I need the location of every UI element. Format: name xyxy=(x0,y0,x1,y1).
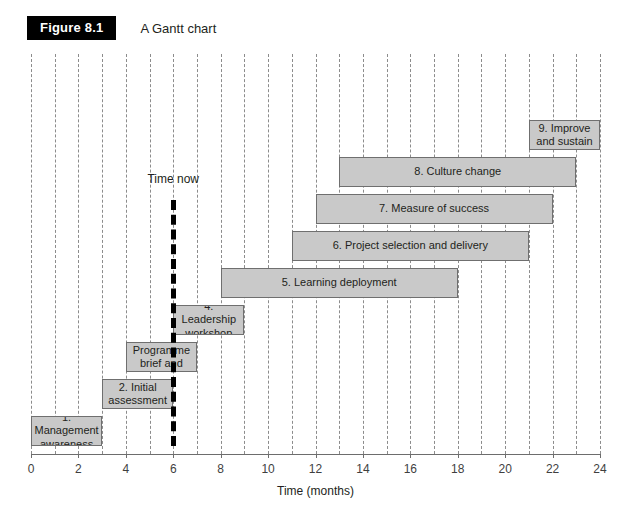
gantt-bar-label: 8. Culture change xyxy=(414,165,501,178)
time-now-marker-line xyxy=(171,200,176,446)
gantt-bar[interactable]: 2. Initial assessment xyxy=(102,379,173,409)
gantt-bar[interactable]: 3. Programme brief and org. xyxy=(126,342,197,372)
chart-gridline xyxy=(576,54,577,454)
x-axis-tick-mark xyxy=(410,454,411,458)
x-axis-tick-label: 24 xyxy=(593,462,606,476)
x-axis-tick-label: 16 xyxy=(404,462,417,476)
x-axis-tick-label: 12 xyxy=(309,462,322,476)
figure-number-badge: Figure 8.1 xyxy=(27,16,116,40)
x-axis-tick-mark xyxy=(505,454,506,458)
x-axis-tick-mark xyxy=(268,454,269,458)
gantt-bar[interactable]: 5. Learning deployment xyxy=(221,268,458,298)
figure-caption: A Gantt chart xyxy=(140,21,216,36)
chart-gridline xyxy=(55,54,56,454)
gantt-bar-label: 3. Programme brief and org. xyxy=(130,342,193,372)
chart-gridline xyxy=(78,54,79,454)
gantt-bar[interactable]: 9. Improve and sustain xyxy=(529,120,600,150)
x-axis-tick-label: 0 xyxy=(28,462,35,476)
x-axis-tick-label: 6 xyxy=(170,462,177,476)
x-axis-tick-mark xyxy=(173,454,174,458)
chart-gridline xyxy=(268,54,269,454)
x-axis-tick-label: 20 xyxy=(498,462,511,476)
x-axis-tick-label: 18 xyxy=(451,462,464,476)
chart-gridline xyxy=(197,54,198,454)
gantt-bar[interactable]: 7. Measure of success xyxy=(316,194,553,224)
x-axis-tick-mark xyxy=(78,454,79,458)
gantt-bar-label: 5. Learning deployment xyxy=(282,276,397,289)
chart-gridline xyxy=(244,54,245,454)
x-axis-tick-mark xyxy=(316,454,317,458)
gantt-bar[interactable]: 1. Management awareness xyxy=(31,416,102,446)
figure-container: Figure 8.1 A Gantt chart 1. Management a… xyxy=(0,0,631,512)
x-axis-tick-mark xyxy=(363,454,364,458)
x-axis-tick-label: 14 xyxy=(356,462,369,476)
gantt-bar-label: 4. Leadership workshop xyxy=(177,305,240,335)
gantt-bar-label: 2. Initial assessment xyxy=(106,381,169,408)
x-axis-tick-mark xyxy=(458,454,459,458)
x-axis-tick-label: 22 xyxy=(546,462,559,476)
gantt-bar-label: 9. Improve and sustain xyxy=(533,122,596,149)
x-axis-title: Time (months) xyxy=(0,484,631,498)
chart-gridline xyxy=(553,54,554,454)
gantt-bar[interactable]: 6. Project selection and delivery xyxy=(292,231,529,261)
x-axis-tick-mark xyxy=(553,454,554,458)
chart-gridline xyxy=(529,54,530,454)
gantt-bar-label: 1. Management awareness xyxy=(34,416,98,446)
x-axis-tick-label: 4 xyxy=(122,462,129,476)
chart-gridline xyxy=(221,54,222,454)
x-axis-tick-label: 2 xyxy=(75,462,82,476)
chart-plot-area: 1. Management awareness2. Initial assess… xyxy=(31,54,600,454)
x-axis-tick-mark xyxy=(221,454,222,458)
figure-header: Figure 8.1 A Gantt chart xyxy=(27,16,216,40)
gantt-bar-label: 6. Project selection and delivery xyxy=(333,239,488,252)
x-axis-tick-mark xyxy=(126,454,127,458)
x-axis-tick-mark xyxy=(31,454,32,458)
chart-gridline xyxy=(31,54,32,454)
x-axis-tick-label: 8 xyxy=(217,462,224,476)
chart-gridline xyxy=(600,54,601,454)
x-axis-tick-label: 10 xyxy=(261,462,274,476)
gantt-bar-label: 7. Measure of success xyxy=(379,202,489,215)
x-axis-tick-mark xyxy=(600,454,601,458)
gantt-bar[interactable]: 4. Leadership workshop xyxy=(173,305,244,335)
time-now-label: Time now xyxy=(147,172,199,186)
gantt-bar[interactable]: 8. Culture change xyxy=(339,157,576,187)
